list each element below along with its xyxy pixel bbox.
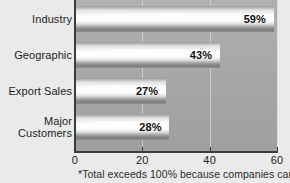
category-label: Major Customers <box>0 115 72 139</box>
bar-value-label: 59% <box>244 13 266 25</box>
bar-value-label: 27% <box>136 85 158 97</box>
x-tick-label: 60 <box>271 154 284 166</box>
bar-row: 43% <box>75 42 277 68</box>
gridline-60 <box>277 0 278 152</box>
x-tick-60 <box>277 147 278 153</box>
x-tick-label: 0 <box>72 154 78 166</box>
y-axis-line <box>74 0 76 153</box>
category-label: Geographic <box>0 49 72 61</box>
category-label: Export Sales <box>0 85 72 97</box>
x-tick-20 <box>142 147 143 153</box>
bar-row: 59% <box>75 6 277 32</box>
bar-value-label: 28% <box>139 121 161 133</box>
chart-footnote: *Total exceeds 100% because companies ca… <box>78 168 290 180</box>
bar-row: 28% <box>75 114 277 140</box>
x-tick-0 <box>75 147 76 153</box>
bar-value-label: 43% <box>190 49 212 61</box>
x-tick-40 <box>210 147 211 153</box>
x-tick-label: 20 <box>136 154 149 166</box>
bar-row: 27% <box>75 78 277 104</box>
bar-chart: 59%43%27%28% 0204060 IndustryGeographicE… <box>0 0 290 183</box>
x-axis-line <box>74 151 278 153</box>
plot-area: 59%43%27%28% <box>75 0 277 152</box>
x-tick-label: 40 <box>203 154 216 166</box>
category-label: Industry <box>0 13 72 25</box>
